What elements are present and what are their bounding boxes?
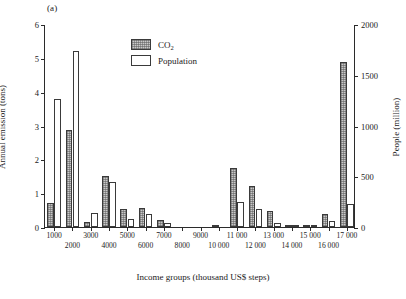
bar-population (109, 182, 116, 227)
plot-area: 0123456 0500100015002000 100020003000400… (44, 25, 355, 228)
bar-co2 (84, 222, 91, 227)
bar-series-container (45, 25, 354, 227)
y-axis-left-tick-label: 4 (35, 88, 39, 97)
x-axis-tick-label: 5000 (120, 232, 135, 240)
x-axis-tick-label: 4000 (101, 242, 116, 250)
bar-population (329, 221, 336, 227)
y-axis-left-tick-label: 6 (35, 21, 39, 30)
x-axis-tick-label: 8000 (175, 242, 190, 250)
y-axis-left-tick-label: 1 (35, 190, 39, 199)
y-axis-left-tick (41, 228, 45, 229)
bar-population (347, 204, 354, 227)
bar-population (256, 209, 263, 227)
bar-co2 (249, 186, 256, 227)
bar-population (91, 213, 98, 227)
y-axis-right-tick (354, 127, 358, 128)
bar-population (128, 219, 135, 227)
x-axis-tick-label: 2000 (65, 242, 80, 250)
bar-co2 (340, 62, 347, 227)
y-axis-right-tick-label: 500 (361, 173, 374, 182)
bar-population (73, 51, 80, 227)
bar-co2 (66, 130, 73, 227)
bar-co2 (303, 225, 310, 227)
x-axis-tick-label: 15 000 (300, 232, 321, 240)
bar-population (146, 214, 153, 227)
bar-co2 (120, 209, 127, 227)
x-axis-tick-label: 9000 (193, 232, 208, 240)
y-axis-right-tick (354, 76, 358, 77)
y-axis-right-tick-label: 2000 (361, 21, 378, 30)
x-axis-tick-label: 14 000 (282, 242, 303, 250)
bar-co2 (212, 225, 219, 227)
x-axis-title: Income groups (thousand US$ steps) (0, 272, 406, 282)
bar-co2 (267, 211, 274, 227)
y-axis-left-tick-label: 3 (35, 122, 39, 131)
x-axis-tick-label: 16 000 (318, 242, 339, 250)
bar-population (237, 202, 244, 227)
x-axis-tick (329, 227, 330, 231)
bar-population (164, 223, 171, 227)
y-axis-right-tick-label: 1500 (361, 72, 378, 81)
x-axis-tick-label: 3000 (83, 232, 98, 240)
x-axis-tick (292, 227, 293, 231)
y-axis-right-title: People (million) (391, 98, 401, 157)
bar-co2 (139, 208, 146, 227)
x-axis-tick-label: 13 000 (263, 232, 284, 240)
x-axis-tick-label: 12 000 (245, 242, 266, 250)
x-axis-tick (255, 227, 256, 231)
bar-co2 (47, 203, 54, 227)
bar-co2 (322, 214, 329, 227)
x-axis-tick (182, 227, 183, 231)
x-axis-tick (109, 227, 110, 231)
y-axis-right-tick (354, 228, 358, 229)
x-axis-tick-label: 6000 (138, 242, 153, 250)
bar-population (292, 225, 299, 227)
x-axis-tick (72, 227, 73, 231)
y-axis-left-title: Annual emission (tons) (0, 85, 7, 169)
x-axis-tick-label: 11 000 (227, 232, 248, 240)
x-axis-tick (146, 227, 147, 231)
y-axis-left-tick-label: 5 (35, 55, 39, 64)
bar-co2 (230, 168, 237, 227)
x-axis-tick-label: 17 000 (336, 232, 357, 240)
bar-co2 (102, 176, 109, 227)
y-axis-left-tick-label: 2 (35, 156, 39, 165)
y-axis-right-tick-label: 1000 (361, 122, 378, 131)
y-axis-left-tick-label: 0 (35, 224, 39, 233)
panel-label: (a) (47, 3, 57, 13)
bar-co2 (285, 225, 292, 227)
x-axis-tick (219, 227, 220, 231)
chart-figure: (a) Annual emission (tons) People (milli… (0, 0, 406, 299)
bar-population (311, 225, 318, 227)
x-axis-tick-label: 7000 (156, 232, 171, 240)
bar-co2 (157, 220, 164, 227)
x-axis-tick-label: 10 000 (208, 242, 229, 250)
y-axis-right-tick (354, 177, 358, 178)
y-axis-right-tick-label: 0 (361, 224, 365, 233)
bar-population (274, 223, 281, 227)
y-axis-right-tick (354, 25, 358, 26)
x-axis-tick-label: 1000 (47, 232, 62, 240)
bar-population (54, 99, 61, 227)
